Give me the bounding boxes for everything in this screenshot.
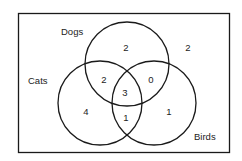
birds-label: Birds <box>194 131 216 142</box>
region-dogs-only: 2 <box>123 42 128 53</box>
venn-diagram: Dogs Cats Birds 2 2 2 0 3 4 1 1 <box>0 0 242 161</box>
cats-circle <box>58 61 142 145</box>
region-cats-only: 4 <box>83 106 88 117</box>
cats-label: Cats <box>28 75 48 86</box>
region-all-three: 3 <box>122 87 127 98</box>
birds-circle <box>112 61 196 145</box>
region-cats-birds: 1 <box>123 112 128 123</box>
dogs-label: Dogs <box>61 26 83 37</box>
region-dogs-cats: 2 <box>101 74 106 85</box>
region-birds-only: 1 <box>166 106 171 117</box>
region-outside: 2 <box>185 42 190 53</box>
region-dogs-birds: 0 <box>148 74 153 85</box>
